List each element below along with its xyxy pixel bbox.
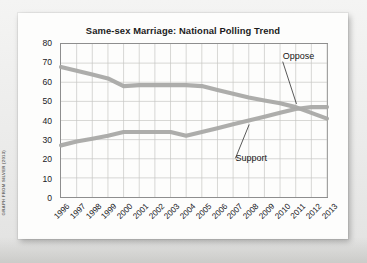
x-tick-label: 1997 bbox=[68, 202, 87, 221]
figure-card: Same-sex Marriage: National Polling Tren… bbox=[18, 13, 348, 239]
x-tick-label: 2000 bbox=[115, 202, 134, 221]
x-tick-label: 2002 bbox=[147, 202, 166, 221]
x-tick-label: 2003 bbox=[163, 202, 182, 221]
x-tick-label: 1999 bbox=[100, 202, 119, 221]
x-tick-label: 2011 bbox=[289, 202, 308, 221]
x-tick-label: 2004 bbox=[179, 202, 198, 221]
x-tick-label: 2010 bbox=[273, 202, 292, 221]
support-annotation-label: Support bbox=[235, 153, 267, 163]
oppose-annotation-label: Oppose bbox=[283, 51, 315, 61]
x-tick-label: 2006 bbox=[210, 202, 229, 221]
x-axis: 1996199719981999200020012002200320042005… bbox=[60, 200, 328, 239]
x-tick-label: 1998 bbox=[84, 202, 103, 221]
x-tick-label: 2005 bbox=[194, 202, 213, 221]
x-tick-label: 2009 bbox=[257, 202, 276, 221]
x-tick-label: 2001 bbox=[131, 202, 150, 221]
scanned-page-background: GRAPH FROM SILVER (2013) Same-sex Marria… bbox=[0, 0, 367, 263]
source-credit-label: GRAPH FROM SILVER (2013) bbox=[1, 150, 6, 215]
x-tick-label: 2012 bbox=[305, 202, 324, 221]
x-tick-label: 2007 bbox=[226, 202, 245, 221]
x-tick-label: 2008 bbox=[242, 202, 261, 221]
